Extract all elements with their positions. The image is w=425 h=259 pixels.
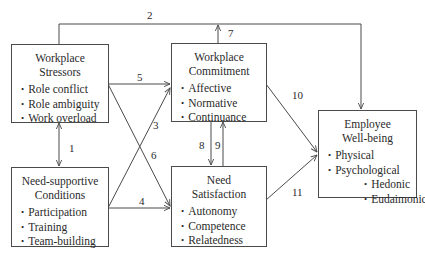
node-employee-wellbeing: Employee Well-being Physical Psychologic… (318, 110, 417, 198)
factor-list: Role conflict Role ambiguity Work overlo… (12, 83, 108, 127)
path-label-2: 2 (147, 10, 153, 21)
path-label-11: 11 (292, 187, 303, 198)
node-need-satisfaction: Need Satisfaction Autonomy Competence Re… (171, 166, 267, 247)
node-title: Need Satisfaction (172, 173, 266, 201)
path-label-6: 6 (151, 150, 157, 161)
list-item: Affective (181, 82, 266, 97)
title-line-2: Stressors (12, 65, 108, 79)
list-item: Physical (328, 149, 416, 164)
title-line-1: Workplace (12, 51, 108, 65)
title-line-2: Commitment (172, 64, 266, 78)
list-item: Autonomy (181, 205, 266, 220)
path-model-diagram: 1 2 3 4 5 6 7 8 9 10 11 Workplace Stress… (0, 0, 425, 259)
factor-list: Affective Normative Continuance (172, 82, 266, 126)
title-line-1: Employee (319, 117, 416, 131)
list-item: Role conflict (21, 83, 108, 98)
node-title: Employee Well-being (319, 117, 416, 145)
factor-list: Participation Training Team-building (12, 206, 108, 250)
path-label-9: 9 (215, 140, 221, 151)
title-line-2: Satisfaction (172, 187, 266, 201)
factor-list: Physical Psychological Hedonic Eudaimoni… (319, 149, 416, 207)
node-title: Workplace Stressors (12, 51, 108, 79)
title-line-1: Need (172, 173, 266, 187)
list-item: Normative (181, 97, 266, 112)
title-line-1: Need-supportive (12, 174, 108, 188)
node-title: Need-supportive Conditions (12, 174, 108, 202)
list-item: Continuance (181, 111, 266, 126)
path-label-8: 8 (199, 140, 205, 151)
node-workplace-stressors: Workplace Stressors Role conflict Role a… (11, 44, 109, 123)
title-line-2: Well-being (319, 131, 416, 145)
list-item: Work overload (21, 112, 108, 127)
path-label-3: 3 (153, 120, 159, 131)
path-label-7: 7 (228, 28, 234, 39)
path-label-5: 5 (137, 72, 143, 83)
node-title: Workplace Commitment (172, 50, 266, 78)
list-item: Team-building (21, 235, 108, 250)
path-label-10: 10 (292, 90, 303, 101)
list-item: Competence (181, 220, 266, 235)
arrow-6 (108, 84, 170, 206)
title-line-1: Workplace (172, 50, 266, 64)
list-subitem: Hedonic (328, 178, 416, 193)
node-workplace-commitment: Workplace Commitment Affective Normative… (171, 43, 267, 122)
path-label-1: 1 (69, 143, 75, 154)
arrow-3 (108, 88, 170, 208)
list-item: Relatedness (181, 234, 266, 249)
list-item: Training (21, 221, 108, 236)
list-item: Psychological (328, 164, 416, 179)
list-subitem: Eudaimonic (328, 193, 416, 208)
node-need-supportive-conditions: Need-supportive Conditions Participation… (11, 167, 109, 247)
factor-list: Autonomy Competence Relatedness (172, 205, 266, 249)
path-label-4: 4 (139, 196, 145, 207)
list-item: Participation (21, 206, 108, 221)
title-line-2: Conditions (12, 188, 108, 202)
list-item: Role ambiguity (21, 98, 108, 113)
